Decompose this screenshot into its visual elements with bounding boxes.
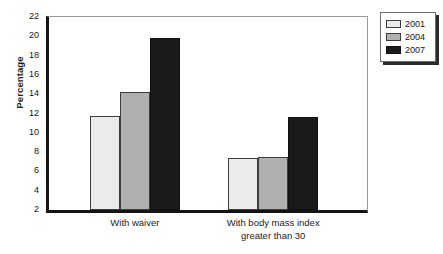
y-axis-tick-label: 2 [34, 204, 39, 214]
legend-item-2007: 2007 [386, 44, 431, 56]
legend-item-2001: 2001 [386, 18, 431, 30]
y-axis-tick-label: 4 [34, 185, 39, 195]
y-axis-tick-label: 6 [34, 165, 39, 175]
bar-2007-group-2 [288, 117, 318, 210]
legend-label-2007: 2007 [405, 45, 425, 55]
x-axis-group-label-2: With body mass index greater than 30 [198, 217, 348, 242]
legend-label-2004: 2004 [405, 32, 425, 42]
legend-item-2004: 2004 [386, 31, 431, 43]
bar-2001-group-1 [90, 116, 120, 210]
y-axis-title: Percentage [14, 28, 25, 138]
y-axis-tick-label: 12 [29, 108, 39, 118]
y-axis-tick-label: 22 [29, 11, 39, 21]
legend: 200120042007 [380, 12, 436, 62]
bar-2007-group-1 [150, 38, 180, 210]
x-axis-group-label-1: With waiver [60, 217, 210, 230]
legend-swatch-2007 [386, 46, 401, 54]
plot-area [46, 16, 368, 213]
bar-2004-group-1 [120, 92, 150, 210]
legend-swatch-2001 [386, 20, 401, 28]
bar-chart: Percentage 246810121416182022 With waive… [0, 0, 443, 254]
bar-2001-group-2 [228, 158, 258, 210]
y-axis-tick-label: 8 [34, 146, 39, 156]
y-axis-tick-label: 10 [29, 127, 39, 137]
legend-swatch-2004 [386, 33, 401, 41]
y-axis-tick-label: 14 [29, 88, 39, 98]
bar-2004-group-2 [258, 157, 288, 210]
legend-label-2001: 2001 [405, 19, 425, 29]
y-axis-tick-label: 16 [29, 69, 39, 79]
y-axis-tick-label: 18 [29, 50, 39, 60]
y-axis-tick-label: 20 [29, 30, 39, 40]
